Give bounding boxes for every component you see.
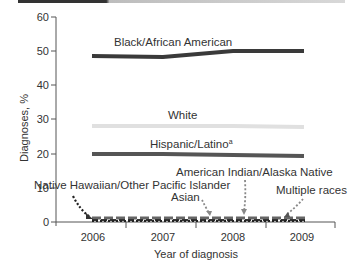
svg-text:2006: 2006 xyxy=(81,231,105,243)
y-axis-label: Diagnoses, % xyxy=(18,94,30,162)
series-hispanic-latino xyxy=(92,154,304,156)
arrowhead-asian xyxy=(206,211,212,216)
series-labels: Black/African American White Hispanic/La… xyxy=(34,36,347,203)
label-nhopi: Native Hawaiian/Other Pacific Islander xyxy=(34,179,230,191)
y-ticks xyxy=(51,17,56,222)
arrow-multiple xyxy=(286,199,303,215)
label-hispanic: Hispanic/Latino xyxy=(150,138,229,150)
svg-text:60: 60 xyxy=(37,11,49,23)
svg-text:0: 0 xyxy=(43,216,49,228)
arrow-aian xyxy=(244,180,245,211)
arrow-nhopi xyxy=(73,196,90,217)
label-black: Black/African American xyxy=(114,36,232,48)
x-tick-labels: 2006 2007 2008 2009 xyxy=(81,231,314,243)
svg-text:2007: 2007 xyxy=(151,231,175,243)
svg-text:30: 30 xyxy=(37,113,49,125)
x-axis-label: Year of diagnosis xyxy=(154,248,238,260)
arrowhead-multiple xyxy=(284,212,290,217)
line-chart: 60 50 40 30 20 10 0 2006 2007 2008 2009 … xyxy=(0,0,361,267)
arrowhead-aian xyxy=(241,209,247,215)
svg-text:2008: 2008 xyxy=(221,231,245,243)
svg-text:50: 50 xyxy=(37,45,49,57)
series-black-african-american xyxy=(92,51,304,57)
svg-text:20: 20 xyxy=(37,148,49,160)
svg-text:2009: 2009 xyxy=(290,231,314,243)
label-multiple: Multiple races xyxy=(276,184,347,196)
label-asian: Asian xyxy=(171,191,200,203)
label-aian: American Indian/Alaska Native xyxy=(176,166,333,178)
label-white: White xyxy=(168,109,197,121)
svg-text:40: 40 xyxy=(37,79,49,91)
y-tick-labels: 60 50 40 30 20 10 0 xyxy=(37,11,49,228)
svg-text:Hispanic/Latinoa: Hispanic/Latinoa xyxy=(150,138,233,150)
x-ticks xyxy=(126,222,266,228)
leader-arrows xyxy=(73,196,90,217)
series-white xyxy=(92,126,304,127)
arrowhead-nhopi xyxy=(86,213,93,219)
